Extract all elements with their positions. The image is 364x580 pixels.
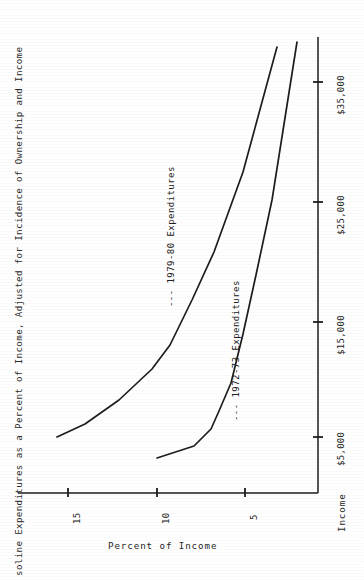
income-tick-label-35000: $35,000: [336, 75, 346, 115]
percent-tick-label-5: 5: [249, 514, 259, 520]
percent-axis-title: Percent of Income: [108, 540, 217, 551]
income-axis-title: Income: [336, 493, 347, 532]
percent-tick-label-10: 10: [161, 513, 171, 524]
series-label-1972-73: --- 1972-73 Expenditures: [231, 280, 241, 421]
series-line-1972-73: [157, 42, 297, 458]
income-tick-label-5000: $5,000: [336, 432, 346, 466]
income-tick-label-15000: $15,000: [336, 315, 346, 355]
income-tick-label-25000: $25,000: [336, 195, 346, 235]
percent-tick-label-15: 15: [72, 513, 82, 524]
chart-plot-area: [0, 0, 364, 580]
figure-canvas: soline Expenditures as a Percent of Inco…: [0, 0, 364, 580]
series-label-1979-80: --- 1979-80 Expenditures: [166, 166, 176, 307]
